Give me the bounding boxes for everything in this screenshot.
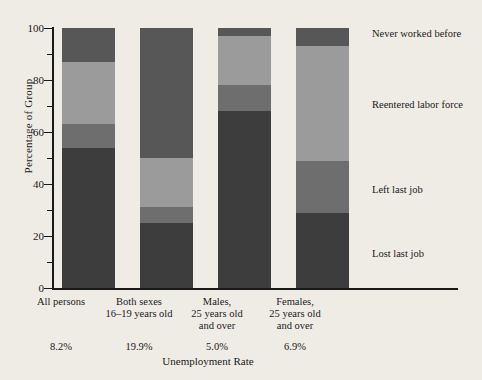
y-tick-0 (44, 288, 52, 289)
legend-item-never-worked-before: Never worked before (372, 28, 461, 39)
bar-segment-3 (218, 28, 271, 36)
bar-segment-3 (296, 28, 349, 46)
y-tick-label-20: 20 (4, 231, 44, 241)
bar-0 (62, 28, 115, 288)
y-tick-60 (44, 132, 52, 133)
bar-segment-2 (296, 46, 349, 160)
bar-segment-0 (296, 213, 349, 288)
unemployment-rate-3: 6.9% (243, 341, 347, 352)
bar-segment-1 (218, 85, 271, 111)
y-tick-label-40: 40 (4, 179, 44, 189)
stacked-bar-chart: Percentage of Group 100 80 60 40 20 0 Al… (0, 0, 482, 380)
category-line-2: 25 years old (243, 308, 347, 320)
bar-segment-2 (140, 158, 193, 207)
y-minor-tick-50 (47, 158, 52, 159)
x-category-label-3: Females, 25 years old and over (243, 296, 347, 333)
bar-segment-0 (218, 111, 271, 288)
legend-item-lost-last-job: Lost last job (372, 248, 424, 259)
y-tick-label-80: 80 (4, 75, 44, 85)
bar-segment-1 (140, 207, 193, 223)
bar-segment-0 (62, 148, 115, 288)
y-tick-20 (44, 236, 52, 237)
legend-item-left-last-job: Left last job (372, 184, 423, 195)
y-tick-label-0: 0 (4, 283, 44, 293)
y-tick-80 (44, 80, 52, 81)
bar-segment-2 (62, 62, 115, 124)
bar-3 (296, 28, 349, 288)
y-tick-label-60: 60 (4, 127, 44, 137)
y-minor-tick-10 (47, 262, 52, 263)
x-axis-line (52, 288, 458, 290)
y-tick-100 (44, 28, 52, 29)
y-tick-label-100: 100 (4, 23, 44, 33)
plot-area (53, 28, 363, 288)
category-line-1: Females, (243, 296, 347, 308)
x-axis-title: Unemployment Rate (53, 355, 363, 367)
bar-segment-1 (296, 161, 349, 213)
category-line-3: and over (243, 320, 347, 332)
y-minor-tick-90 (47, 54, 52, 55)
bar-segment-1 (62, 124, 115, 147)
bar-segment-0 (140, 223, 193, 288)
y-minor-tick-30 (47, 210, 52, 211)
bar-2 (218, 28, 271, 288)
bar-1 (140, 28, 193, 288)
y-tick-40 (44, 184, 52, 185)
y-minor-tick-70 (47, 106, 52, 107)
bar-segment-3 (140, 28, 193, 158)
bar-segment-3 (62, 28, 115, 62)
legend-item-reentered-labor-force: Reentered labor force (372, 99, 463, 110)
bar-segment-2 (218, 36, 271, 85)
